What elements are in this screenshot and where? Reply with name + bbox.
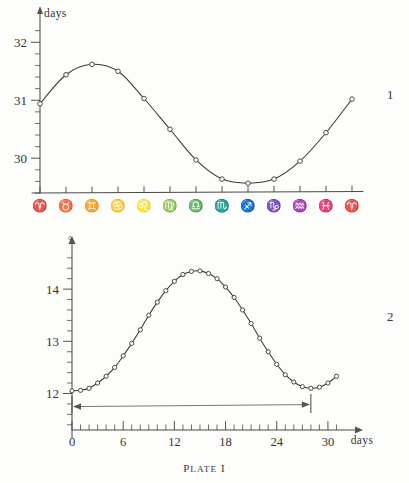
- figure-2-data-point: [241, 308, 245, 312]
- figure-1-zodiac-label-taurus: ♉: [58, 198, 74, 213]
- figure-2-data-point: [317, 385, 321, 389]
- figure-1-y-tick-label: 31: [14, 93, 27, 108]
- figure-2-data-point: [121, 354, 125, 358]
- figure-2-data-point: [87, 386, 91, 390]
- figure-2-data-point: [292, 380, 296, 384]
- figure-2-data-point: [334, 374, 338, 378]
- figure-2-data-point: [206, 271, 210, 275]
- figure-1-x-axis-line: [32, 192, 363, 194]
- figure-2-y-tick-label: 12: [46, 386, 59, 401]
- plate-caption-numeral: I: [217, 462, 226, 474]
- figure-2-x-axis-arrowhead: [355, 427, 363, 434]
- figure-2-data-point: [300, 385, 304, 389]
- figure-1-data-point: [38, 101, 43, 106]
- figure-1-data-point: [350, 97, 355, 102]
- figure-1-number: 1: [387, 87, 394, 102]
- figure-2-data-point: [130, 341, 134, 345]
- figure-2-data-line: [72, 271, 336, 391]
- figure-2-data-point: [181, 272, 185, 276]
- figure-1-zodiac-label-aries: ♈: [32, 198, 48, 213]
- figure-2-data-point: [275, 362, 279, 366]
- figure-2-data-point: [113, 365, 117, 369]
- figure-1-data-point: [324, 130, 329, 135]
- figure-1-data-point: [116, 69, 121, 74]
- figure-2-x-tick-label: 18: [219, 435, 232, 449]
- figure-2-y-axis-unit-label: °: [68, 235, 72, 246]
- figure-2-data-point: [326, 381, 330, 385]
- figure-1-data-markers: [38, 62, 355, 185]
- figure-1-data-point: [168, 127, 173, 132]
- figure-1-zodiac-label-sagittarius: ♐: [240, 198, 256, 213]
- figure-1-zodiac-label-leo: ♌: [136, 198, 152, 213]
- figure-2-data-point: [223, 285, 227, 289]
- figure-2-annotation-line: [74, 405, 309, 407]
- figure-1-data-point: [272, 177, 277, 182]
- figure-1-y-tick-label: 30: [14, 151, 27, 166]
- figure-1-zodiac-label-capricorn: ♑: [266, 198, 282, 213]
- figure-1-y-axis-unit-label: days: [44, 7, 67, 20]
- figure-1-zodiac-label-cancer: ♋: [110, 198, 126, 213]
- figure-2-data-point: [249, 321, 253, 325]
- figure-1-data-point: [64, 72, 69, 77]
- figure-1-y-tick-labels: 323130: [14, 35, 27, 166]
- figure-1-data-point: [194, 158, 199, 163]
- figure-2-data-point: [189, 269, 193, 273]
- figure-2-y-tick-labels: 141312: [46, 282, 60, 401]
- figure-2-data-point: [138, 328, 142, 332]
- plate-image: 323130 ♈♉♊♋♌♍♎♏♐♑♒♓♈ days 1 141312 06121…: [0, 0, 409, 483]
- figure-2-number: 2: [387, 309, 394, 324]
- figure-2-data-point: [232, 295, 236, 299]
- figure-2-data-point: [215, 277, 219, 281]
- figure-2-data-point: [104, 374, 108, 378]
- figure-1-zodiac-labels: ♈♉♊♋♌♍♎♏♐♑♒♓♈: [32, 198, 360, 213]
- figure-2-x-ticks: [72, 421, 336, 430]
- figure-2-y-tick-label: 13: [46, 334, 59, 349]
- figure-2-y-tick-label: 14: [46, 282, 60, 297]
- figure-2-x-tick-label: 30: [322, 435, 335, 449]
- figure-2-annotation-left-arrowhead: [73, 403, 81, 409]
- figure-1-zodiac-label-aries: ♈: [344, 198, 360, 213]
- figure-2-x-tick-label: 6: [120, 435, 126, 449]
- figure-2-axes: [69, 236, 364, 438]
- figure-1-y-ticks: [31, 31, 40, 193]
- figure-2-chart: 141312 0612182430 ° days 2: [0, 228, 409, 483]
- figure-1-zodiac-label-aquarius: ♒: [292, 198, 308, 213]
- figure-1-y-tick-label: 32: [14, 35, 27, 50]
- figure-2-x-tick-label: 12: [168, 435, 181, 449]
- figure-2-data-point: [95, 381, 99, 385]
- figure-2-curve: [72, 271, 336, 391]
- plate-caption-rest: LATE: [190, 464, 217, 474]
- figure-1-chart: 323130 ♈♉♊♋♌♍♎♏♐♑♒♓♈ days 1: [0, 0, 409, 228]
- figure-1-zodiac-label-libra: ♎: [188, 198, 204, 213]
- figure-1-data-point: [142, 96, 147, 101]
- figure-2-data-point: [155, 300, 159, 304]
- figure-2-data-point: [172, 279, 176, 283]
- figure-1-data-line: [40, 64, 352, 183]
- figure-1-data-point: [246, 181, 251, 186]
- figure-1-data-point: [298, 159, 303, 164]
- figure-2-data-point: [266, 350, 270, 354]
- figure-1-zodiac-label-scorpio: ♏: [214, 198, 230, 213]
- figure-2: 141312 0612182430 ° days 2: [0, 228, 409, 483]
- figure-1-zodiac-label-pisces: ♓: [318, 198, 334, 213]
- figure-2-data-point: [78, 388, 82, 392]
- figure-2-data-point: [309, 386, 313, 390]
- figure-1-data-point: [220, 177, 225, 182]
- figure-2-x-tick-label: 24: [271, 435, 284, 449]
- figure-2-data-point: [198, 269, 202, 273]
- figure-2-data-point: [70, 389, 74, 393]
- figure-1-curve: [40, 64, 352, 183]
- figure-2-data-point: [147, 313, 151, 317]
- figure-1-data-point: [90, 62, 95, 67]
- figure-1: 323130 ♈♉♊♋♌♍♎♏♐♑♒♓♈ days 1: [0, 0, 409, 228]
- figure-2-annotation-right-arrowhead: [302, 401, 310, 407]
- figure-2-data-point: [164, 289, 168, 293]
- figure-2-data-point: [258, 336, 262, 340]
- figure-1-y-axis-arrowhead: [37, 6, 43, 14]
- plate-caption: PLATE I: [0, 462, 409, 474]
- figure-2-span-annotation: [72, 394, 311, 413]
- figure-2-data-markers: [70, 269, 339, 393]
- figure-2-data-point: [283, 373, 287, 377]
- figure-2-x-tick-label: 0: [69, 435, 75, 449]
- figure-1-zodiac-label-virgo: ♍: [162, 198, 178, 213]
